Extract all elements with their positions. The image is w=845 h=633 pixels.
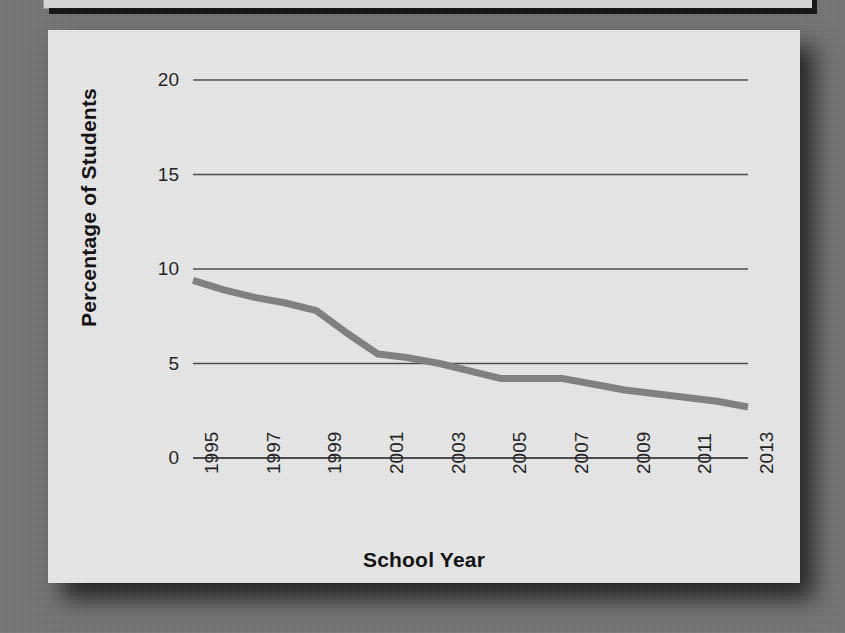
x-tick-label: 1997 (263, 432, 285, 474)
x-axis-title: School Year (48, 548, 800, 572)
x-tick-label: 2011 (694, 433, 716, 474)
y-tick-label: 0 (119, 448, 179, 467)
y-axis-title: Percentage of Students (77, 97, 101, 327)
x-tick-label: 2001 (386, 432, 408, 474)
line-chart: Percentage of Students School Year 05101… (48, 30, 800, 583)
x-tick-label: 1995 (201, 432, 223, 474)
y-tick-label: 15 (119, 165, 179, 184)
y-tick-label: 5 (119, 354, 179, 373)
page-edge-strip (44, 0, 812, 8)
x-tick-label: 2013 (756, 432, 778, 474)
figure-card: Percentage of Students School Year 05101… (48, 30, 800, 583)
x-tick-label: 2007 (571, 432, 593, 474)
x-tick-label: 2005 (509, 432, 531, 474)
y-tick-label: 10 (119, 259, 179, 278)
y-tick-label: 20 (119, 70, 179, 89)
x-tick-label: 1999 (324, 432, 346, 474)
x-tick-label: 2003 (448, 432, 470, 474)
data-line-series-0 (193, 280, 748, 407)
chart-plot-svg (48, 30, 800, 583)
x-tick-label: 2009 (633, 432, 655, 474)
